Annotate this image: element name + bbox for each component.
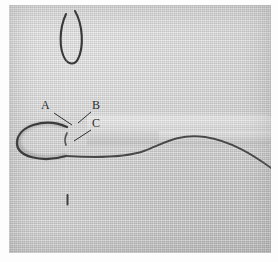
needle-eye-thread-loop xyxy=(61,11,82,64)
label-a: A xyxy=(41,99,50,111)
label-c: C xyxy=(92,117,100,129)
thread-tail-highlight xyxy=(66,138,271,170)
left-thread-loop xyxy=(17,123,67,159)
leader-line-b xyxy=(78,112,91,123)
needle-thread-illustration xyxy=(9,5,271,253)
thread-tail xyxy=(66,136,271,168)
photograph: A B C xyxy=(9,5,271,253)
label-b: B xyxy=(92,99,100,111)
leader-line-c xyxy=(74,130,91,141)
screenshot-root: A B C xyxy=(0,0,278,262)
